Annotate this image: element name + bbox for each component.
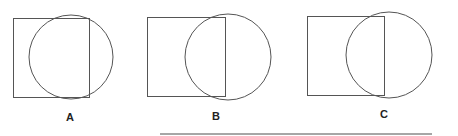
figure-b: B: [148, 14, 272, 122]
square-a: [14, 19, 90, 98]
circle-c: [346, 12, 432, 98]
figure-c: C: [308, 12, 433, 120]
figure-a: A: [14, 15, 114, 123]
figure-label-c: C: [380, 108, 388, 120]
figure-label-b: B: [212, 110, 220, 122]
circle-b: [185, 14, 271, 100]
circle-a: [29, 15, 113, 99]
figure-label-a: A: [66, 111, 74, 123]
square-b: [148, 18, 226, 97]
diagram-canvas: A B C: [0, 0, 458, 136]
